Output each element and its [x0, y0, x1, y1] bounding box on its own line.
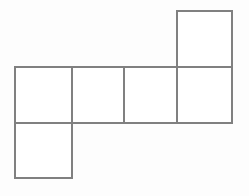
- square-bottom-left: [15, 123, 72, 178]
- square-top: [177, 11, 232, 67]
- figure-canvas: [0, 0, 249, 196]
- square-row-1: [15, 67, 72, 123]
- cube-net-diagram: [0, 0, 249, 196]
- square-row-4: [177, 67, 232, 123]
- square-row-3: [124, 67, 177, 123]
- square-row-2: [72, 67, 124, 123]
